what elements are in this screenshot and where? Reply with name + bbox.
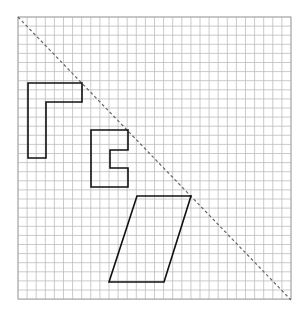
c-shape <box>91 130 128 187</box>
shapes-group <box>28 83 191 282</box>
parallelogram <box>109 196 191 282</box>
diagram-canvas <box>0 0 305 324</box>
square-grid <box>18 17 291 299</box>
